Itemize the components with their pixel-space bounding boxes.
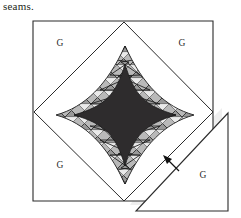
figure-page: seams. bbox=[0, 0, 241, 218]
label-g-top-right: G bbox=[179, 38, 186, 48]
label-g-bottom-right: G bbox=[200, 170, 207, 180]
label-g-bottom-left: G bbox=[57, 160, 64, 170]
label-g-top-left: G bbox=[57, 38, 64, 48]
folded-square-diagram: G G G G bbox=[0, 0, 241, 218]
